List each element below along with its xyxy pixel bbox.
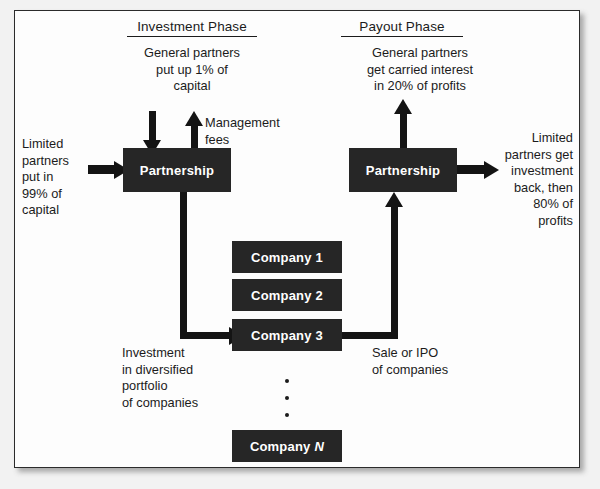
company-box-3[interactable]: Company 3 [232,319,342,351]
diagram-panel: Investment Phase Payout Phase General pa… [14,10,580,468]
company-n-index: N [311,439,325,454]
partnership-box-investment[interactable]: Partnership [123,148,231,192]
annotation-carried-interest: General partners get carried interest in… [334,45,506,95]
ellipsis-dot [285,396,289,400]
ellipsis-dot [285,413,289,417]
connector-exit-flow-arrowhead [385,192,403,207]
ellipsis-dot [285,379,289,383]
company-box-2[interactable]: Company 2 [232,279,342,311]
connector-investment-flow-horizontal [180,332,230,339]
connector-lp-in-shaft [88,165,115,174]
annotation-exit-flow: Sale or IPO of companies [372,345,482,378]
annotation-lp-contribution: Limited partners put in 99% of capital [22,136,92,219]
annotation-management-fees: Management fees [205,115,295,148]
connector-carried-interest-shaft [400,111,407,148]
annotation-investment-flow: Investment in diversified portfolio of c… [122,345,238,411]
page-background: Investment Phase Payout Phase General pa… [0,0,600,489]
connector-exit-flow-horizontal [342,332,398,339]
company-box-1[interactable]: Company 1 [232,241,342,273]
connector-lp-payout-shaft [457,165,485,174]
annotation-lp-payout: Limited partners get investment back, th… [487,130,573,229]
partnership-box-payout[interactable]: Partnership [349,148,457,192]
connector-investment-flow-vertical [180,192,187,339]
phase-heading-investment: Investment Phase [127,19,257,37]
connector-exit-flow-vertical [391,204,398,339]
phase-heading-payout: Payout Phase [341,19,463,37]
company-n-prefix: Company [250,439,311,454]
connector-management-fees-arrowhead [185,111,203,126]
connector-gp-capital-shaft [149,111,156,142]
annotation-gp-contribution: General partners put up 1% of capital [112,45,272,95]
company-box-n[interactable]: CompanyN [232,430,342,462]
ellipsis-dots [284,379,290,417]
connector-carried-interest-arrowhead [394,99,412,114]
